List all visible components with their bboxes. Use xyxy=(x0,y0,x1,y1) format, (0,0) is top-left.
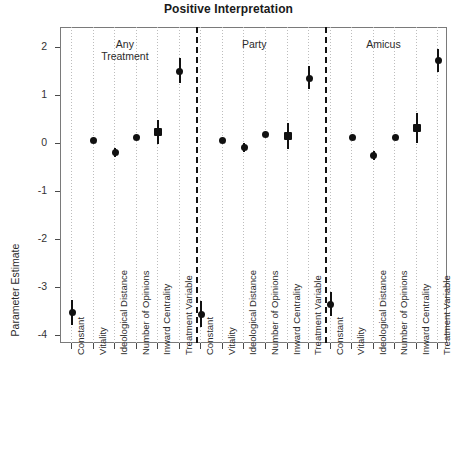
y-tick-mark xyxy=(55,47,60,48)
x-tick-label: Number of Opinions xyxy=(398,271,409,355)
grid-line xyxy=(243,27,244,343)
group-label-party: Party xyxy=(204,38,304,50)
x-tick-mark xyxy=(179,343,180,349)
y-tick-mark xyxy=(55,335,60,336)
y-tick-mark xyxy=(55,191,60,192)
group-divider xyxy=(325,27,327,343)
data-point xyxy=(69,309,76,316)
y-tick-label: 2 xyxy=(21,40,47,52)
data-point xyxy=(435,57,442,64)
x-tick-mark xyxy=(330,343,331,349)
x-tick-label: Treatment Variable xyxy=(183,275,194,355)
x-tick-mark xyxy=(373,343,374,349)
group-label-line1: Party xyxy=(204,38,304,50)
y-tick-label: -2 xyxy=(21,232,47,244)
x-tick-label: Treatment Variable xyxy=(312,275,323,355)
y-tick-mark xyxy=(55,95,60,96)
grid-line xyxy=(265,27,266,343)
grid-line xyxy=(71,27,72,343)
grid-line xyxy=(114,27,115,343)
group-label-line1: Amicus xyxy=(333,38,433,50)
y-tick-label: 1 xyxy=(21,88,47,100)
y-axis-label: Parameter Estimate xyxy=(9,200,21,380)
x-tick-mark xyxy=(416,343,417,349)
data-point xyxy=(306,75,313,82)
data-point xyxy=(241,144,248,151)
x-tick-mark xyxy=(114,343,115,349)
data-point xyxy=(349,134,356,141)
grid-line xyxy=(416,27,417,343)
data-point xyxy=(133,134,140,141)
data-point xyxy=(284,132,292,140)
x-tick-label: Vitality xyxy=(226,327,237,355)
x-tick-label: Constant xyxy=(204,317,215,355)
grid-line xyxy=(157,27,158,343)
x-tick-label: Number of Opinions xyxy=(269,271,280,355)
x-tick-label: Ideological Distance xyxy=(247,270,258,355)
group-divider xyxy=(196,27,198,343)
data-point xyxy=(112,149,119,156)
x-tick-mark xyxy=(287,343,288,349)
x-tick-mark xyxy=(351,343,352,349)
x-tick-mark xyxy=(308,343,309,349)
group-label-amicus: Amicus xyxy=(333,38,433,50)
x-tick-mark xyxy=(437,343,438,349)
grid-line xyxy=(287,27,288,343)
grid-line xyxy=(222,27,223,343)
data-point xyxy=(176,68,183,75)
x-tick-mark xyxy=(157,343,158,349)
y-tick-label: 0 xyxy=(21,136,47,148)
data-point xyxy=(154,128,162,136)
x-tick-label: Vitality xyxy=(97,327,108,355)
chart-title: Positive Interpretation xyxy=(0,2,457,16)
x-tick-mark xyxy=(265,343,266,349)
x-tick-label: Inward Centrality xyxy=(420,284,431,355)
x-tick-mark xyxy=(243,343,244,349)
data-point xyxy=(327,301,334,308)
x-tick-label: Constant xyxy=(75,317,86,355)
group-label-any-treatment: AnyTreatment xyxy=(75,38,175,62)
x-tick-mark xyxy=(71,343,72,349)
x-tick-label: Inward Centrality xyxy=(291,284,302,355)
grid-line xyxy=(200,27,201,343)
data-point xyxy=(392,134,399,141)
y-tick-label: -3 xyxy=(21,280,47,292)
y-tick-label: -4 xyxy=(21,328,47,340)
grid-line xyxy=(136,27,137,343)
x-tick-label: Ideological Distance xyxy=(377,270,388,355)
grid-line xyxy=(437,27,438,343)
x-tick-mark xyxy=(200,343,201,349)
x-tick-label: Ideological Distance xyxy=(118,270,129,355)
x-tick-mark xyxy=(93,343,94,349)
x-tick-label: Treatment Variable xyxy=(441,275,452,355)
group-label-line1: Any xyxy=(75,38,175,50)
x-tick-label: Number of Opinions xyxy=(140,271,151,355)
x-tick-label: Inward Centrality xyxy=(161,284,172,355)
grid-line xyxy=(351,27,352,343)
y-tick-mark xyxy=(55,143,60,144)
grid-line xyxy=(394,27,395,343)
x-tick-mark xyxy=(394,343,395,349)
group-label-line2: Treatment xyxy=(75,50,175,62)
grid-line xyxy=(93,27,94,343)
grid-line xyxy=(373,27,374,343)
y-tick-mark xyxy=(55,287,60,288)
chart-container: Positive Interpretation Parameter Estima… xyxy=(0,0,457,464)
y-tick-label: -1 xyxy=(21,184,47,196)
x-tick-mark xyxy=(222,343,223,349)
x-tick-label: Constant xyxy=(334,317,345,355)
y-tick-mark xyxy=(55,239,60,240)
x-tick-label: Vitality xyxy=(355,327,366,355)
x-tick-mark xyxy=(136,343,137,349)
data-point xyxy=(413,124,421,132)
